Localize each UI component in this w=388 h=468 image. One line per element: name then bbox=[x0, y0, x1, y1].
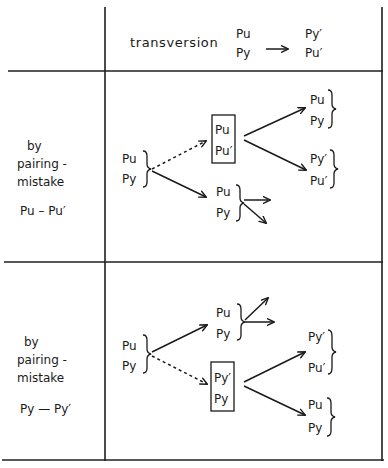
result1-top: Pu bbox=[310, 93, 325, 107]
source-bottom: Py bbox=[122, 359, 136, 373]
arrow-icon bbox=[244, 108, 305, 136]
row-label-mistake: mistake bbox=[17, 371, 64, 385]
result1-bottom: Py bbox=[310, 114, 324, 128]
brace-icon bbox=[327, 398, 335, 436]
normal-pair-bottom: Py bbox=[216, 206, 230, 220]
arrow-icon bbox=[244, 386, 305, 415]
normal-pair-bottom: Py bbox=[216, 327, 230, 341]
result1-bottom: Pu′ bbox=[308, 361, 326, 375]
arrow-icon bbox=[244, 204, 266, 223]
box-bottom: Pu′ bbox=[215, 144, 233, 158]
solid-arrow-icon bbox=[152, 171, 206, 197]
row-label-pair: Pu – Pu′ bbox=[20, 204, 66, 218]
header-from-bottom: Py bbox=[236, 46, 250, 60]
header-from-top: Pu bbox=[236, 27, 251, 41]
result2-top: Py′ bbox=[310, 152, 327, 166]
result2-bottom: Py bbox=[308, 421, 322, 435]
brace-icon bbox=[328, 330, 336, 374]
header-cell: transversion Pu Py Py′ Pu′ bbox=[130, 27, 323, 60]
row-py-py-mistake: by pairing - mistake Py — Py′ Pu Py Pu P… bbox=[17, 298, 336, 436]
source-top: Pu bbox=[122, 152, 137, 166]
normal-pair-top: Pu bbox=[216, 306, 231, 320]
row-label-by: by bbox=[27, 139, 42, 153]
transversion-diagram: transversion Pu Py Py′ Pu′ by pairing - … bbox=[0, 0, 388, 468]
source-bottom: Py bbox=[122, 172, 136, 186]
result1-top: Py′ bbox=[308, 330, 325, 344]
brace-icon bbox=[237, 304, 245, 340]
row-label-pair: Py — Py′ bbox=[20, 402, 71, 416]
brace-icon bbox=[330, 150, 338, 188]
brace-icon bbox=[328, 90, 336, 128]
row-pu-pu-mistake: by pairing - mistake Pu – Pu′ Pu Py Pu P… bbox=[17, 90, 338, 223]
dashed-arrow-icon bbox=[152, 356, 207, 384]
brace-icon bbox=[143, 151, 151, 187]
header-title: transversion bbox=[130, 35, 218, 50]
table-grid bbox=[2, 7, 384, 461]
row-label-pairing: pairing - bbox=[17, 157, 67, 171]
source-top: Pu bbox=[122, 339, 137, 353]
arrow-icon bbox=[244, 140, 306, 170]
dashed-arrow-icon bbox=[152, 141, 206, 169]
arrow-icon bbox=[244, 352, 305, 382]
header-to-bottom: Pu′ bbox=[305, 46, 323, 60]
normal-pair-top: Pu bbox=[216, 185, 231, 199]
box-top: Py′ bbox=[214, 371, 231, 385]
box-top: Pu bbox=[215, 123, 230, 137]
header-to-top: Py′ bbox=[305, 27, 322, 41]
row-label-mistake: mistake bbox=[17, 175, 64, 189]
row-label-by: by bbox=[24, 335, 39, 349]
result2-bottom: Pu′ bbox=[310, 174, 328, 188]
arrow-icon bbox=[245, 298, 268, 320]
brace-icon bbox=[143, 335, 151, 373]
result2-top: Pu bbox=[308, 398, 323, 412]
solid-arrow-icon bbox=[152, 325, 207, 352]
row-label-pairing: pairing - bbox=[17, 353, 67, 367]
brace-icon bbox=[236, 185, 244, 221]
box-bottom: Py bbox=[214, 392, 228, 406]
